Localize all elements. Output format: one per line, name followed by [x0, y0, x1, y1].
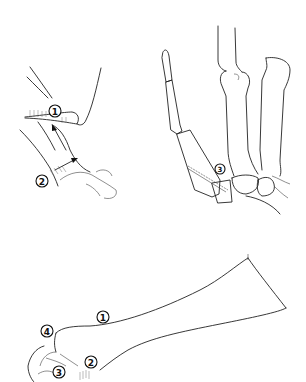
panel-c: 1 4 2 3	[28, 254, 286, 382]
label-3: 3	[56, 368, 62, 378]
label-3: 3	[218, 166, 223, 174]
illustration: 1 2 3	[0, 0, 306, 382]
panel-b: 3	[162, 26, 290, 214]
label-2: 2	[88, 358, 94, 368]
label-1: 1	[52, 107, 58, 117]
label-4: 4	[44, 327, 50, 337]
panel-a: 1 2	[20, 67, 116, 199]
label-1: 1	[100, 313, 106, 323]
label-2: 2	[39, 177, 45, 187]
